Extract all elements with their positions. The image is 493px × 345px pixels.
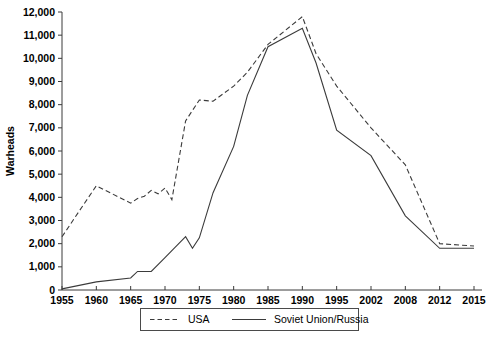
- y-tick-label: 4,000: [29, 191, 55, 203]
- chart-canvas: 01,0002,0003,0004,0005,0006,0007,0008,00…: [0, 0, 493, 345]
- x-tick-label: 1980: [222, 294, 246, 306]
- x-tick-label: 1990: [291, 294, 315, 306]
- legend-label-usa: USA: [188, 313, 210, 325]
- x-axis-ticks: [62, 286, 474, 290]
- series-line-soviet-russia: [62, 28, 474, 289]
- x-tick-label: 2012: [428, 294, 452, 306]
- x-tick-label: 1965: [119, 294, 143, 306]
- y-tick-label: 10,000: [23, 52, 55, 64]
- x-tick-label: 2002: [359, 294, 383, 306]
- y-tick-label: 5,000: [29, 168, 55, 180]
- y-tick-label: 3,000: [29, 214, 55, 226]
- legend-items: USASoviet Union/Russia: [150, 313, 369, 325]
- x-axis-tick-labels: 1955196019651970197519801985199019952002…: [50, 294, 486, 306]
- y-axis: 01,0002,0003,0004,0005,0006,0007,0008,00…: [4, 6, 62, 296]
- y-tick-label: 11,000: [23, 29, 55, 41]
- series-line-usa: [62, 17, 474, 246]
- y-axis-ticks: [58, 12, 62, 290]
- legend-label-soviet-russia: Soviet Union/Russia: [274, 313, 369, 325]
- warheads-line-chart: 01,0002,0003,0004,0005,0006,0007,0008,00…: [0, 0, 493, 345]
- y-tick-label: 1,000: [29, 260, 55, 272]
- x-tick-label: 1960: [85, 294, 109, 306]
- y-tick-label: 6,000: [29, 145, 55, 157]
- y-tick-label: 9,000: [29, 75, 55, 87]
- y-tick-label: 8,000: [29, 98, 55, 110]
- x-axis: 1955196019651970197519801985199019952002…: [50, 286, 486, 306]
- x-tick-label: 1955: [50, 294, 74, 306]
- chart-legend: USASoviet Union/Russia: [141, 309, 369, 331]
- y-axis-tick-labels: 01,0002,0003,0004,0005,0006,0007,0008,00…: [23, 6, 55, 296]
- series-lines: [62, 17, 474, 289]
- x-tick-label: 1975: [188, 294, 212, 306]
- x-tick-label: 2008: [394, 294, 418, 306]
- y-axis-title: Warheads: [4, 126, 16, 176]
- y-tick-label: 7,000: [29, 121, 55, 133]
- x-tick-label: 1985: [256, 294, 280, 306]
- y-tick-label: 12,000: [23, 6, 55, 18]
- y-tick-label: 2,000: [29, 237, 55, 249]
- x-tick-label: 1970: [153, 294, 177, 306]
- x-tick-label: 2015: [462, 294, 486, 306]
- x-tick-label: 1995: [325, 294, 349, 306]
